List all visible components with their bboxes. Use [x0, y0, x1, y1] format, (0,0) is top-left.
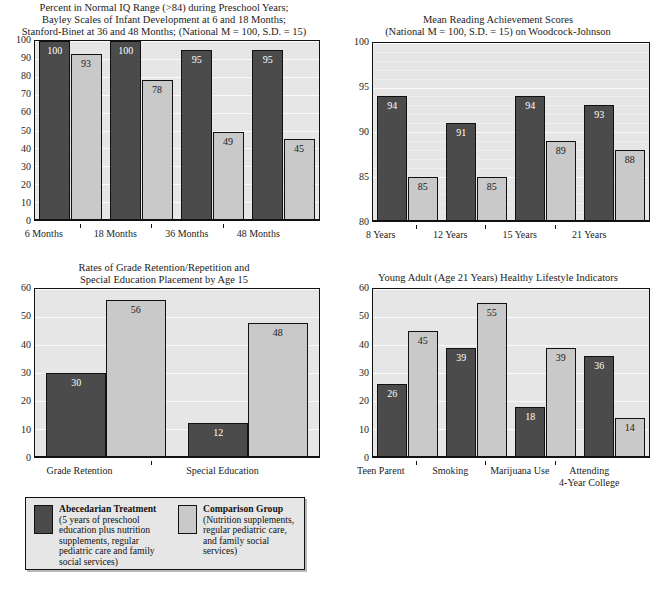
y-axis-tick-label: 50	[21, 126, 31, 136]
legend-entry-treatment: Abecedarian Treatment (5 years of presch…	[34, 504, 174, 568]
bar: 55	[477, 303, 507, 457]
bar: 100	[110, 41, 141, 220]
figure-canvas: Percent in Normal IQ Range (>84) during …	[0, 0, 658, 592]
y-axis-tick-label: 40	[21, 144, 31, 154]
legend-entry-text: Abecedarian Treatment (5 years of presch…	[59, 504, 156, 568]
bar: 94	[515, 96, 545, 221]
bar: 56	[106, 300, 166, 457]
chart-panel-healthy-lifestyle: Young Adult (Age 21 Years) Healthy Lifes…	[346, 272, 650, 504]
x-axis-tick-label: Special Education	[168, 465, 278, 477]
bar-value-label: 91	[447, 127, 475, 138]
y-axis: 0102030405060	[346, 288, 372, 458]
plot-area: 2645395518393614	[372, 288, 650, 458]
bar-value-label: 56	[107, 304, 165, 315]
bar: 100	[39, 41, 70, 220]
x-axis-labels: 8 Years12 Years15 Years21 Years	[346, 225, 650, 251]
y-axis-tick-label: 100	[354, 37, 369, 47]
bar-value-label: 95	[253, 54, 282, 65]
legend-description: (Nutrition supplements, regular pediatri…	[203, 515, 294, 557]
bar: 49	[213, 132, 244, 220]
bar-value-label: 94	[516, 100, 544, 111]
bar-value-label: 85	[478, 181, 506, 192]
y-axis-tick-label: 100	[16, 35, 31, 45]
y-axis-tick-label: 60	[359, 283, 369, 293]
x-axis-tick	[151, 461, 152, 465]
bar-value-label: 93	[72, 58, 101, 69]
y-axis-tick-label: 20	[21, 180, 31, 190]
bar-value-label: 36	[585, 360, 613, 371]
bar: 85	[477, 177, 507, 222]
y-axis: 80859095100	[346, 42, 372, 222]
chart-title: Percent in Normal IQ Range (>84) during …	[8, 2, 320, 39]
y-axis-tick-label: 20	[359, 396, 369, 406]
bar-value-label: 88	[616, 154, 644, 165]
legend-entry-comparison: Comparison Group (Nutrition supplements,…	[178, 504, 302, 557]
bar-value-label: 30	[47, 377, 105, 388]
y-axis-tick-label: 10	[359, 425, 369, 435]
figure-legend: Abecedarian Treatment (5 years of presch…	[25, 497, 305, 570]
y-axis-tick-label: 80	[21, 71, 31, 81]
plot-area-wrapper: 0102030405060 2645395518393614	[346, 288, 650, 458]
bar: 78	[142, 80, 173, 220]
gridline	[35, 457, 319, 458]
chart-panel-grade-retention: Rates of Grade Retention/Repetition and …	[8, 262, 320, 490]
bar: 48	[248, 323, 308, 457]
bar-value-label: 48	[249, 327, 307, 338]
plot-area: 30561248	[34, 288, 320, 458]
y-axis-tick-label: 85	[359, 172, 369, 182]
gridline	[373, 221, 649, 222]
bar: 91	[446, 123, 476, 221]
bar: 93	[584, 105, 614, 221]
chart-title: Young Adult (Age 21 Years) Healthy Lifes…	[346, 272, 650, 284]
bar: 12	[188, 423, 248, 457]
bar-value-label: 85	[409, 181, 437, 192]
legend-title: Abecedarian Treatment	[59, 504, 156, 515]
y-axis-tick-label: 20	[21, 396, 31, 406]
bar-value-label: 100	[40, 45, 69, 56]
bar: 26	[377, 384, 407, 457]
chart-panel-iq-preschool: Percent in Normal IQ Range (>84) during …	[8, 2, 320, 252]
plot-area: 100931007895499545	[34, 40, 320, 221]
x-axis-tick-label: 21 Years	[534, 229, 644, 241]
plot-area: 9485918594899388	[372, 42, 650, 222]
plot-area-wrapper: 0102030405060708090100 10093100789549954…	[8, 40, 320, 221]
y-axis-tick-label: 50	[359, 311, 369, 321]
x-axis-labels: 6 Months18 Months36 Months48 Months	[8, 224, 320, 250]
bar-group: 30561248	[35, 289, 319, 457]
x-axis-tick-label: 48 Months	[203, 228, 313, 240]
bar: 45	[284, 139, 315, 220]
y-axis-tick-label: 10	[21, 425, 31, 435]
bar: 85	[408, 177, 438, 222]
bar: 39	[446, 348, 476, 457]
bar-value-label: 94	[378, 100, 406, 111]
bar: 45	[408, 331, 438, 457]
bar: 36	[584, 356, 614, 457]
bar: 39	[546, 348, 576, 457]
bar: 14	[615, 418, 645, 457]
bar-value-label: 26	[378, 388, 406, 399]
bar-value-label: 95	[182, 54, 211, 65]
y-axis-tick-label: 40	[359, 340, 369, 350]
bar: 89	[546, 141, 576, 221]
chart-title: Mean Reading Achievement Scores (Nationa…	[346, 14, 650, 38]
legend-description: (5 years of preschool education plus nut…	[59, 515, 156, 568]
bar-group: 2645395518393614	[373, 289, 649, 457]
y-axis-tick-label: 10	[21, 198, 31, 208]
legend-swatch-comparison-icon	[178, 505, 197, 534]
plot-area-wrapper: 80859095100 9485918594899388	[346, 42, 650, 222]
bar: 30	[46, 373, 106, 457]
bar: 95	[181, 50, 212, 220]
bar-value-label: 89	[547, 145, 575, 156]
bar: 95	[252, 50, 283, 220]
legend-swatch-treatment-icon	[34, 505, 53, 534]
bar-value-label: 78	[143, 84, 172, 95]
chart-title: Rates of Grade Retention/Repetition and …	[8, 262, 320, 286]
bar-value-label: 55	[478, 307, 506, 318]
y-axis-tick-label: 40	[21, 340, 31, 350]
bar-value-label: 45	[409, 335, 437, 346]
bar: 93	[71, 54, 102, 220]
bar-value-label: 45	[285, 143, 314, 154]
y-axis-tick-label: 30	[21, 162, 31, 172]
x-axis-tick-label: Grade Retention	[25, 465, 135, 477]
bar-value-label: 12	[189, 427, 247, 438]
